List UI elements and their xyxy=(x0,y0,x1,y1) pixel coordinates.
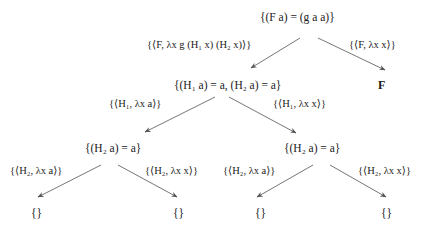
node-l1-left: {(H₁ a) = a, (H₂ a) = a} xyxy=(174,79,281,91)
node-leaf-ll: {} xyxy=(31,207,42,219)
node-l1-right-failure: F xyxy=(378,79,385,91)
tree-edges xyxy=(0,0,425,231)
edge-label-l2r-right: {⟨H₂, λx x⟩} xyxy=(358,165,411,177)
node-leaf-rl: {} xyxy=(255,207,266,219)
edge-label-root-right: {⟨F, λx x⟩} xyxy=(349,39,396,51)
node-root: {(F a) = (g a a)} xyxy=(260,11,335,23)
node-leaf-rr: {} xyxy=(381,207,392,219)
edge-label-l2r-left: {⟨H₂, λx a⟩} xyxy=(223,165,275,177)
node-l2-left: {(H₂ a) = a} xyxy=(85,142,141,154)
node-l2-right: {(H₂ a) = a} xyxy=(284,142,340,154)
edge-root-left xyxy=(251,38,300,68)
edge-label-root-left: {⟨F, λx g (H₁ x) (H₂ x)⟩} xyxy=(147,39,251,51)
edge-label-l2l-left: {⟨H₂, λx a⟩} xyxy=(10,165,62,177)
node-leaf-lr: {} xyxy=(173,207,184,219)
edge-label-l2l-right: {⟨H₂, λx x⟩} xyxy=(145,165,198,177)
edge-label-l1-left: {⟨H₁, λx a⟩} xyxy=(109,98,161,110)
edge-label-l1-right: {⟨H₁, λx x⟩} xyxy=(273,98,326,110)
